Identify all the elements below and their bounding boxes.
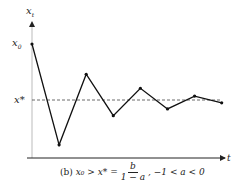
data-point (112, 114, 115, 117)
time-path-series (30, 42, 223, 146)
caption-condition: , −1 < a < 0 (148, 167, 205, 177)
data-point (30, 42, 33, 45)
data-point (220, 101, 223, 104)
data-point (58, 143, 61, 146)
caption: (b) x₀ > x* = b 1 − a , −1 < a < 0 (60, 162, 205, 183)
x0-tick-label: x0 (12, 38, 21, 50)
caption-lhs: x₀ > x* = (76, 167, 118, 177)
caption-prefix: (b) (60, 167, 73, 177)
data-point (166, 107, 169, 110)
caption-fraction: b 1 − a (121, 162, 145, 183)
data-point (193, 94, 196, 97)
data-point (85, 73, 88, 76)
y-axis-label: xt (26, 6, 34, 18)
xstar-tick-label: x* (14, 95, 25, 105)
x-axis-label: t (227, 154, 231, 163)
chart-figure: xt x0 x* t (b) x₀ > x* = b 1 − a , −1 < … (0, 0, 237, 193)
data-point (139, 87, 142, 90)
